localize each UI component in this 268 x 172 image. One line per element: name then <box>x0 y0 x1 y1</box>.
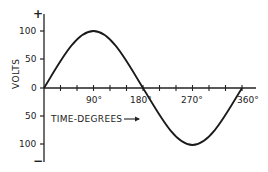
y-tick-label-100-pos: 100 <box>19 26 36 36</box>
arrow-right-icon <box>124 117 140 122</box>
y-tick-label-50-neg: 50 <box>25 111 37 121</box>
y-minus-symbol: − <box>33 154 43 168</box>
x-tick-label-90: 90° <box>86 95 102 105</box>
y-tick-label-50-pos: 50 <box>25 54 37 64</box>
x-tick-label-270: 270° <box>181 95 203 105</box>
y-tick-label-100-neg: 100 <box>19 139 36 149</box>
x-axis-title: TIME-DEGREES <box>50 114 122 124</box>
sine-wave-chart: + 100 50 0 50 100 − VOLTS 90° 180° 270° … <box>0 0 268 172</box>
y-tick-label-0: 0 <box>31 83 37 93</box>
y-axis-title: VOLTS <box>11 58 21 89</box>
y-plus-symbol: + <box>33 7 43 21</box>
x-tick-label-360: 360° <box>237 95 259 105</box>
x-tick-label-180: 180° <box>130 95 152 105</box>
